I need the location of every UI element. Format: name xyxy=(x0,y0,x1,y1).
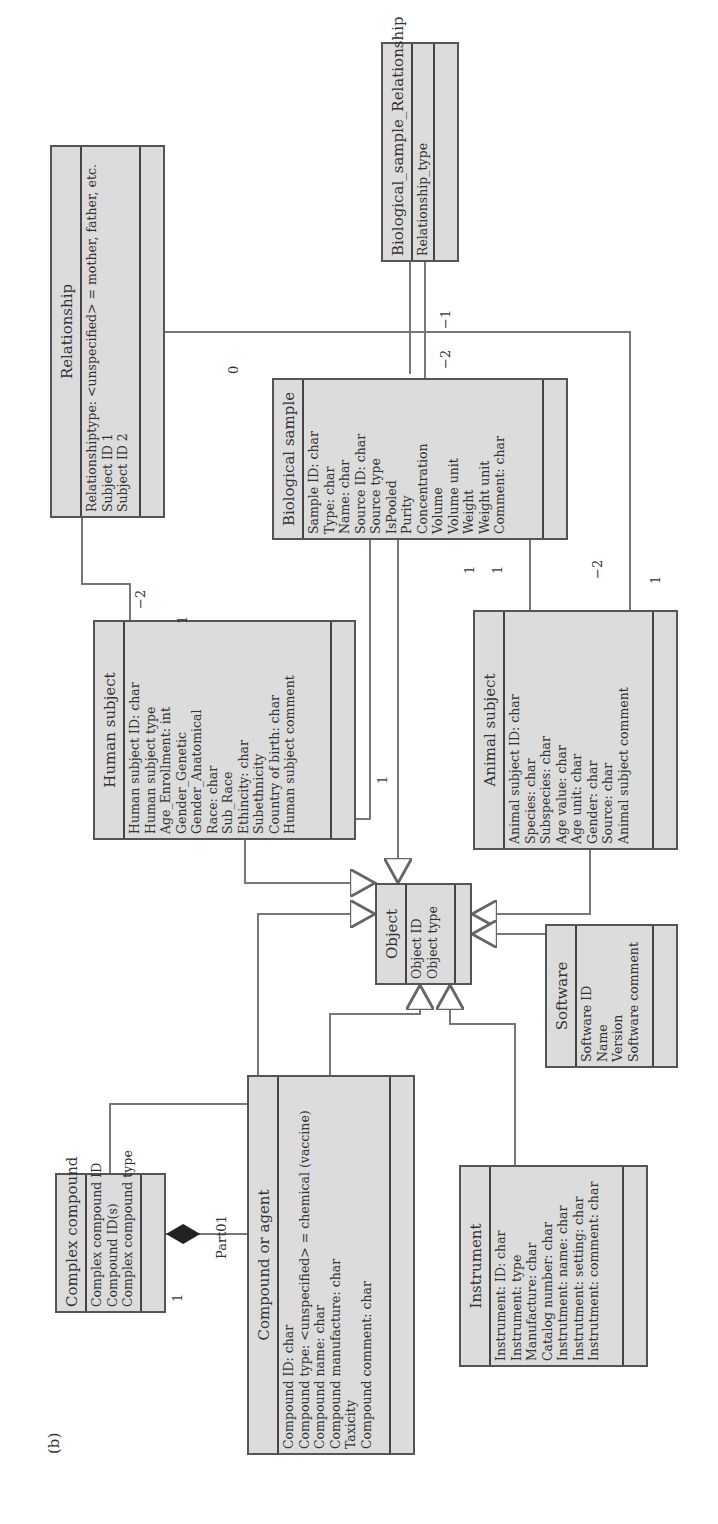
class-title: Instrument xyxy=(461,1167,491,1365)
attribute: Name: char xyxy=(337,384,353,534)
class-attributes: Animal subject ID: char Species: char Su… xyxy=(505,612,654,848)
class-attributes: Compound ID: char Compound type: <unspec… xyxy=(279,1077,391,1453)
attribute: Taxicity xyxy=(343,1081,359,1449)
class-attributes: Object ID Object type xyxy=(407,885,456,983)
class-title: Biological_sample_Relationship xyxy=(383,44,413,260)
attribute: Software comment xyxy=(626,930,642,1062)
multiplicity-label: 1 xyxy=(375,776,390,784)
class-attributes: Human subject ID: char Human subject typ… xyxy=(125,622,332,838)
class-title: Human subject xyxy=(95,622,125,838)
multiplicity-label: −2 xyxy=(133,590,148,609)
class-complex-compound[interactable]: Complex compound Complex compound ID Com… xyxy=(55,1173,166,1313)
class-biological-sample[interactable]: Biological sample Sample ID: char Type: … xyxy=(272,378,568,540)
class-object[interactable]: Object Object ID Object type xyxy=(375,883,472,985)
attribute: Instrutment: name: char xyxy=(555,1171,571,1361)
attribute: Age_Enrollment: int xyxy=(158,626,174,834)
attribute: Gender_Genetic xyxy=(174,626,190,834)
class-operations xyxy=(456,885,470,983)
multiplicity-label: 1 xyxy=(462,566,477,574)
class-biological-sample-relationship[interactable]: Biological_sample_Relationship Relations… xyxy=(381,42,459,262)
attribute: Source type xyxy=(368,384,384,534)
class-operations xyxy=(142,1175,164,1311)
attribute: Complex compound type xyxy=(120,1179,136,1307)
attribute: Sub_Race xyxy=(220,626,236,834)
class-operations xyxy=(141,147,163,516)
attribute: Compound ID(s) xyxy=(105,1179,121,1307)
attribute: Animal subject ID: char xyxy=(507,616,523,844)
attribute: Subspecies: char xyxy=(538,616,554,844)
attribute: Human subject comment xyxy=(282,626,298,834)
attribute: Comment: char xyxy=(492,384,508,534)
attribute: Compound comment: char xyxy=(359,1081,375,1449)
class-relationship[interactable]: Relationship Relationshiptype: <unspecif… xyxy=(50,145,165,518)
class-attributes: Complex compound ID Compound ID(s) Compl… xyxy=(87,1175,142,1311)
attribute: Catalog number: char xyxy=(540,1171,556,1361)
class-human-subject[interactable]: Human subject Human subject ID: char Hum… xyxy=(93,620,356,840)
class-title: Compound or agent xyxy=(249,1077,279,1453)
attribute: Type: char xyxy=(322,384,338,534)
class-attributes: Instrument: ID: char Instrument: type Ma… xyxy=(491,1167,624,1365)
attribute: Volume unit xyxy=(446,384,462,534)
multiplicity-label: 1 xyxy=(648,576,663,584)
attribute: Subject ID 1 xyxy=(100,151,116,512)
attribute: Volume xyxy=(430,384,446,534)
class-operations xyxy=(654,926,676,1066)
attribute: Source ID: char xyxy=(353,384,369,534)
attribute: Object type xyxy=(425,889,441,979)
attribute: Complex compound ID xyxy=(89,1179,105,1307)
multiplicity-label: 1 xyxy=(490,566,505,574)
attribute: Weight unit xyxy=(477,384,493,534)
multiplicity-label: −1 xyxy=(438,310,453,329)
attribute: Instrutment: comment: char xyxy=(586,1171,602,1361)
class-attributes: Relationship_type xyxy=(413,44,435,260)
attribute: Age value: char xyxy=(554,616,570,844)
attribute: Software ID xyxy=(579,930,595,1062)
class-instrument[interactable]: Instrument Instrument: ID: char Instrume… xyxy=(459,1165,648,1367)
multiplicity-label: 0 xyxy=(226,366,241,374)
multiplicity-label: −2 xyxy=(438,350,453,369)
attribute: Country of birth: char xyxy=(267,626,283,834)
attribute: IsPooled xyxy=(384,384,400,534)
class-operations xyxy=(332,622,354,838)
class-title: Complex compound xyxy=(57,1175,87,1311)
attribute: Source: char xyxy=(600,616,616,844)
class-title: Animal subject xyxy=(475,612,505,848)
class-operations xyxy=(435,44,457,260)
attribute: Instrument: ID: char xyxy=(493,1171,509,1361)
attribute: Age unit: char xyxy=(569,616,585,844)
attribute: Compound type: <unspecified> = chemical … xyxy=(297,1081,313,1449)
attribute: Instrutment: setting: char xyxy=(571,1171,587,1361)
attribute: Species: char xyxy=(523,616,539,844)
attribute: Gender: char xyxy=(585,616,601,844)
attribute: Human subject ID: char xyxy=(127,626,143,834)
class-operations xyxy=(544,380,566,538)
attribute: Name xyxy=(595,930,611,1062)
attribute: Subethnicity xyxy=(251,626,267,834)
attribute: Sample ID: char xyxy=(306,384,322,534)
class-compound-or-agent[interactable]: Compound or agent Compound ID: char Comp… xyxy=(247,1075,415,1455)
role-label: Part01 xyxy=(214,1215,229,1259)
class-title: Software xyxy=(547,926,577,1066)
class-title: Biological sample xyxy=(274,380,304,538)
class-attributes: Relationshiptype: <unspecified> = mother… xyxy=(82,147,141,516)
attribute: Instrument: type xyxy=(509,1171,525,1361)
multiplicity-label: 1 xyxy=(175,616,190,624)
attribute: Ethincity: char xyxy=(236,626,252,834)
class-software[interactable]: Software Software ID Name Version Softwa… xyxy=(545,924,678,1068)
attribute: Relationshiptype: <unspecified> = mother… xyxy=(84,151,100,512)
attribute: Animal subject comment xyxy=(616,616,632,844)
attribute: Compound ID: char xyxy=(281,1081,297,1449)
attribute: Compound manufacture: char xyxy=(328,1081,344,1449)
attribute: Concentration xyxy=(415,384,431,534)
multiplicity-label: −2 xyxy=(590,560,605,579)
class-title: Object xyxy=(377,885,407,983)
attribute: Subject ID 2 xyxy=(115,151,131,512)
figure-label: (b) xyxy=(45,1433,63,1454)
attribute: Manufacture: char xyxy=(524,1171,540,1361)
attribute: Version xyxy=(610,930,626,1062)
class-operations xyxy=(654,612,676,848)
class-animal-subject[interactable]: Animal subject Animal subject ID: char S… xyxy=(473,610,678,850)
class-operations xyxy=(391,1077,413,1453)
multiplicity-label: 1 xyxy=(170,1294,185,1302)
uml-diagram: Biological_sample_Relationship Relations… xyxy=(0,0,718,1524)
